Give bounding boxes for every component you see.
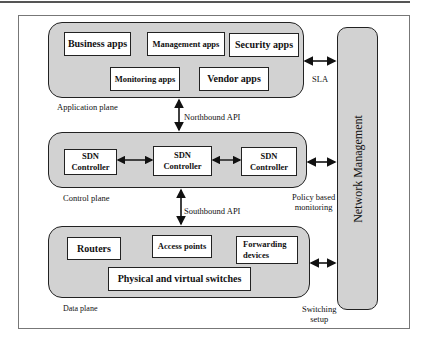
arrows-layer bbox=[0, 0, 427, 347]
